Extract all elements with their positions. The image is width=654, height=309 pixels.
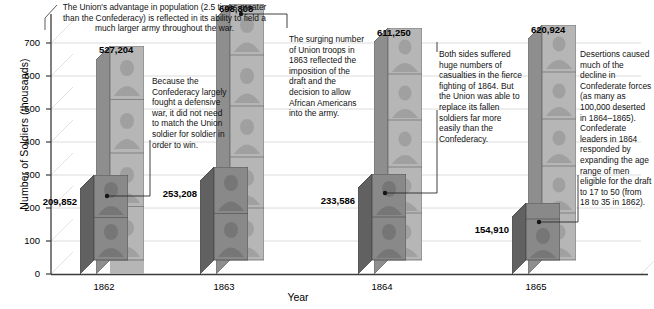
- callout-confederate-defensive-war: Because the Confederacy largely fought a…: [152, 76, 228, 150]
- callout-confederate-desertions: Desertions caused much of the decline in…: [580, 49, 652, 208]
- callout-union-population: The Union's advantage in population (2.5…: [57, 2, 272, 34]
- callout-union-draft-1863: The surging number of Union troops in 18…: [289, 34, 365, 119]
- callout-casualties-1864: Both sides suffered huge numbers of casu…: [439, 49, 523, 144]
- civil-war-soldiers-chart: Number of Soldiers (thousands): [0, 0, 654, 309]
